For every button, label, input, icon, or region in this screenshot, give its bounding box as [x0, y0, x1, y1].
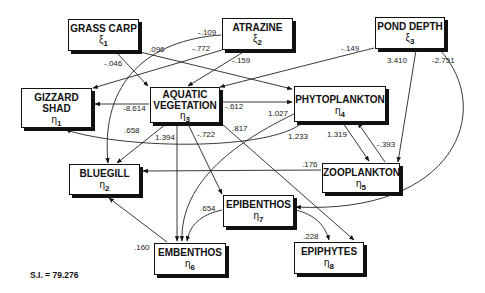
node-embenthos: EMBENTHOS η6 [154, 243, 226, 275]
node-symbol: η4 [295, 105, 385, 120]
coef-zooplankton-phytoplankton: -.393 [377, 140, 395, 149]
node-gizzard-shad: GIZZARDSHAD η1 [21, 88, 92, 128]
fit-index: S.I. = 79.276 [30, 270, 78, 280]
coef-grasscarp-aquaticveg: -.046 [104, 59, 122, 68]
coef-phytoplankton-embenthos: 1.027 [268, 109, 288, 118]
node-phytoplankton: PHYTOPLANKTON η4 [294, 86, 386, 122]
node-epibenthos: EPIBENTHOS η7 [223, 195, 294, 227]
edge-ponddepth-zooplankton [398, 50, 416, 162]
coef-ponddepth-aquaticveg: -.149 [341, 44, 359, 53]
coef-aquaticveg-epiphytes: .817 [232, 124, 248, 133]
edge-zooplankton-bluegill [143, 170, 321, 171]
node-symbol: η3 [151, 111, 219, 125]
node-label: POND DEPTH [376, 21, 444, 32]
node-label: EMBENTHOS [155, 247, 225, 258]
node-label: GIZZARDSHAD [22, 92, 91, 114]
coef-ponddepth-epibenthos: -2.751 [432, 56, 455, 65]
coef-gizzardshad-phytoplankton: 1.233 [288, 132, 308, 141]
node-grass-carp: GRASS CARP ξ1 [68, 19, 139, 51]
node-atrazine: ATRAZINE ξ2 [222, 18, 293, 50]
edge-phytoplankton-zooplankton [343, 123, 369, 161]
coef-atrazine-aquaticveg: -.159 [232, 56, 250, 65]
path-diagram: GRASS CARP ξ1 ATRAZINE ξ2 POND DEPTH ξ3 … [0, 0, 485, 293]
coef-embenthos-bluegill: .160 [134, 243, 150, 252]
node-symbol: ξ2 [223, 33, 292, 48]
edge-embenthos-bluegill [109, 198, 167, 242]
node-zooplankton: ZOOPLANKTON η5 [322, 163, 400, 193]
coef-phytoplankton-zooplankton: 1.319 [327, 130, 347, 139]
node-aquatic-vegetation: AQUATICVEGETATION η3 [150, 87, 220, 123]
edge-grasscarp-aquaticveg [116, 52, 148, 86]
coef-aquaticveg-gizzardshad: -8.614 [123, 104, 146, 113]
node-symbol: η6 [155, 258, 225, 273]
node-label: ATRAZINE [223, 22, 292, 33]
coef-aquaticveg-epibenthos: -.722 [197, 130, 215, 139]
edge-ponddepth-aquaticveg [220, 48, 374, 87]
coef-aquaticveg-embenthos: 1.394 [155, 133, 175, 142]
coef-epibenthos-embenthos: .654 [200, 204, 216, 213]
node-symbol: ξ1 [69, 34, 138, 49]
node-symbol: η8 [295, 257, 363, 272]
coef-aquaticveg-bluegill: .658 [124, 126, 140, 135]
node-bluegill: BLUEGILL η2 [69, 164, 140, 195]
coef-zooplankton-bluegill: .176 [302, 160, 318, 169]
node-label: AQUATICVEGETATION [151, 89, 219, 111]
coef-grasscarp-phytoplankton: .096 [149, 45, 165, 54]
node-label: EPIPHYTES [295, 246, 363, 257]
coef-atrazine-bluegill: -.109 [198, 28, 216, 37]
coef-atrazine-gizzardshad: -.772 [192, 44, 210, 53]
edge-atrazine-gizzardshad [93, 50, 222, 88]
edge-grasscarp-phytoplankton [140, 52, 292, 89]
node-epiphytes: EPIPHYTES η8 [294, 242, 364, 274]
node-label: ZOOPLANKTON [323, 167, 399, 178]
node-label: BLUEGILL [70, 168, 139, 179]
node-symbol: η7 [224, 210, 293, 225]
node-symbol: η5 [323, 178, 399, 193]
edge-epibenthos-embenthos [187, 210, 222, 241]
node-label: PHYTOPLANKTON [295, 94, 385, 105]
edge-gizzardshad-phytoplankton [66, 123, 302, 144]
node-label: GRASS CARP [69, 23, 138, 34]
node-symbol: ξ3 [376, 32, 444, 47]
node-symbol: η2 [70, 179, 139, 194]
coef-ponddepth-zooplankton: 3.410 [387, 56, 407, 65]
coef-epibenthos-epiphytes: .228 [303, 232, 319, 241]
coef-aquaticveg-phytoplankton: -.612 [225, 102, 243, 111]
node-pond-depth: POND DEPTH ξ3 [375, 17, 445, 49]
node-label: EPIBENTHOS [224, 199, 293, 210]
node-symbol: η1 [22, 114, 91, 129]
